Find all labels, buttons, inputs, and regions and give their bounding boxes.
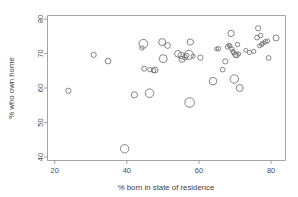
- y-axis-ticks: 4050607080: [36, 15, 48, 161]
- y-axis-title: % who own home: [7, 57, 16, 119]
- data-point: [228, 30, 234, 36]
- data-point: [230, 75, 238, 83]
- data-point: [258, 33, 263, 38]
- scatter-plot-figure: 20406080 4050607080 % born in state of r…: [0, 0, 298, 197]
- data-point: [145, 89, 154, 98]
- plot-canvas: 20406080 4050607080 % born in state of r…: [0, 0, 298, 197]
- data-point: [131, 92, 137, 98]
- data-point: [252, 49, 256, 53]
- data-point: [209, 77, 217, 85]
- x-tick-label: 60: [195, 166, 203, 175]
- data-point: [120, 145, 128, 153]
- data-point: [247, 50, 251, 54]
- plot-frame: [48, 16, 286, 161]
- data-point: [235, 42, 239, 46]
- data-point: [66, 88, 71, 93]
- y-tick-label: 60: [36, 84, 45, 92]
- data-point: [91, 52, 96, 57]
- y-tick-label: 80: [36, 15, 45, 23]
- x-tick-label: 40: [123, 166, 131, 175]
- data-point: [223, 59, 228, 64]
- data-point: [220, 67, 225, 72]
- data-point: [159, 55, 167, 63]
- y-tick-label: 50: [36, 118, 45, 126]
- data-point: [198, 55, 203, 60]
- data-point: [105, 58, 111, 64]
- x-axis-ticks: 20406080: [51, 161, 276, 175]
- data-point: [266, 56, 271, 61]
- data-point: [142, 66, 147, 71]
- x-axis-title: % born in state of residence: [118, 183, 215, 192]
- x-tick-label: 80: [267, 166, 275, 175]
- data-point: [273, 35, 279, 41]
- x-tick-label: 20: [51, 166, 59, 175]
- data-points-layer: [66, 26, 279, 153]
- data-point: [255, 26, 260, 31]
- y-tick-label: 70: [36, 49, 45, 57]
- data-point: [187, 39, 193, 45]
- data-point: [236, 85, 243, 92]
- data-point: [165, 43, 171, 49]
- data-point: [185, 98, 195, 108]
- y-tick-label: 40: [36, 153, 45, 161]
